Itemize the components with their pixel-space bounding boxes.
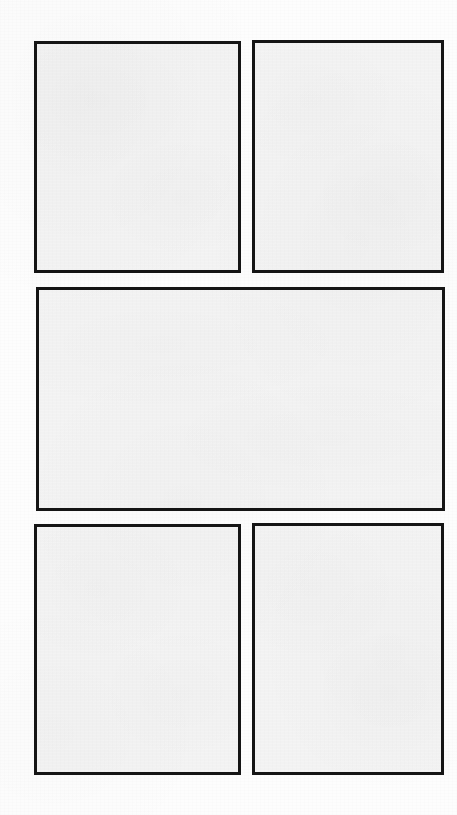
panel-bottom-right[interactable] bbox=[252, 523, 444, 775]
panel-middle-wide[interactable] bbox=[36, 287, 445, 511]
panel-top-left[interactable] bbox=[34, 41, 241, 273]
panel-bottom-left[interactable] bbox=[34, 524, 241, 775]
panel-top-right[interactable] bbox=[252, 40, 444, 273]
scanned-page bbox=[0, 0, 457, 815]
